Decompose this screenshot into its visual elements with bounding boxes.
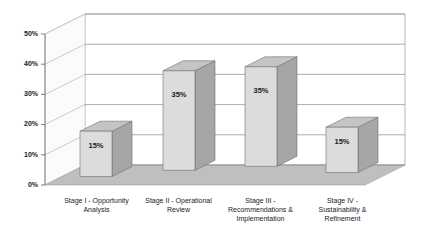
y-tick-label-30: 30% <box>24 90 39 97</box>
y-axis-ticks <box>41 34 45 185</box>
bar-stage-3[interactable]: 35% <box>245 57 297 167</box>
bar-1-front <box>80 131 112 176</box>
y-tick-label-50: 50% <box>24 30 39 37</box>
y-tick-label-0: 0% <box>28 181 39 188</box>
x-category-label-stage-4: Stage IV - Sustainability & Refinement <box>290 196 395 223</box>
bar-2-value-label: 35% <box>171 90 186 99</box>
bar-2-side <box>195 61 215 171</box>
bar-4-front <box>326 127 358 172</box>
y-tick-label-40: 40% <box>24 60 39 67</box>
bar-stage-2[interactable]: 35% <box>163 61 215 171</box>
y-tick-label-20: 20% <box>24 120 39 127</box>
bar-stage-4[interactable]: 15% <box>326 117 378 172</box>
y-tick-label-10: 10% <box>24 151 39 158</box>
bar-4-value-label: 15% <box>334 137 349 146</box>
bar-1-value-label: 15% <box>88 141 103 150</box>
bar-3-side <box>277 57 297 167</box>
bar-2-front <box>163 71 195 171</box>
chart-left-wall <box>45 14 85 185</box>
bar-3-front <box>245 67 277 167</box>
bar-stage-1[interactable]: 15% <box>80 121 132 176</box>
chart-container: 0% 10% 20% 30% 40% 50% 15% 35% 35% <box>0 0 428 237</box>
bar-3-value-label: 35% <box>253 86 268 95</box>
